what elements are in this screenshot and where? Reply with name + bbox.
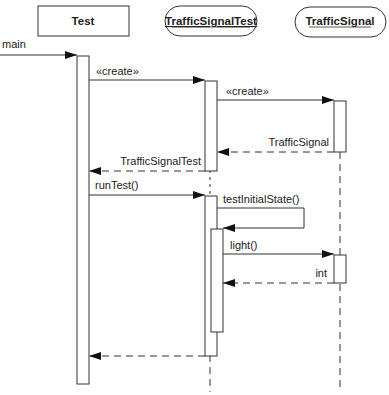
participant-traffic-signal-test-label: TrafficSignalTest — [165, 15, 257, 27]
activation-traffic-signal-1 — [334, 101, 346, 152]
svg-text:testInitialState(): testInitialState() — [223, 193, 299, 205]
message-return-traffic-signal-test: TrafficSignalTest — [89, 155, 205, 171]
svg-text:TrafficSignalTest: TrafficSignalTest — [120, 155, 201, 167]
participant-traffic-signal: TrafficSignal — [295, 7, 386, 37]
participant-test: Test — [38, 6, 129, 36]
message-light: light() — [223, 239, 334, 254]
message-main: main — [0, 38, 77, 55]
activation-traffic-signal-2 — [334, 255, 346, 283]
activation-traffic-signal-test-nested — [211, 229, 223, 332]
svg-text:TrafficSignal: TrafficSignal — [268, 136, 329, 148]
svg-text:int: int — [315, 267, 327, 279]
svg-text:«create»: «create» — [226, 85, 269, 97]
participant-traffic-signal-test: TrafficSignalTest — [165, 6, 257, 36]
message-run-test: runTest() — [89, 179, 205, 195]
svg-text:runTest(): runTest() — [95, 179, 138, 191]
activation-traffic-signal-test-1 — [205, 81, 217, 171]
message-create-traffic-signal: «create» — [217, 85, 334, 100]
participant-test-label: Test — [72, 15, 95, 27]
activation-test — [77, 56, 89, 384]
svg-text:light(): light() — [230, 239, 258, 251]
svg-text:main: main — [2, 38, 26, 50]
sequence-diagram: Test TrafficSignalTest TrafficSignal mai… — [0, 0, 389, 395]
message-create-traffic-signal-test: «create» — [89, 65, 205, 80]
message-return-int: int — [223, 267, 334, 283]
message-test-initial-state: testInitialState() — [217, 193, 304, 228]
participant-traffic-signal-label: TrafficSignal — [305, 15, 374, 27]
message-return-traffic-signal: TrafficSignal — [217, 136, 334, 152]
svg-text:«create»: «create» — [96, 65, 139, 77]
